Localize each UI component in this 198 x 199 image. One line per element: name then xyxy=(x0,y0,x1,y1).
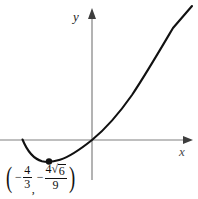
function-curve xyxy=(23,6,193,162)
y-fraction-denominator: 9 xyxy=(52,179,60,192)
open-paren: ( xyxy=(6,165,12,190)
x-axis-arrowhead xyxy=(183,136,193,144)
x-axis-label: x xyxy=(179,145,185,158)
radical-sign: √ xyxy=(52,163,59,175)
x-coordinate-sign: − xyxy=(14,171,23,183)
y-axis-arrowhead xyxy=(88,8,96,19)
graph-figure: y x ( − 4 3 , − 4√6 9 ) xyxy=(0,0,198,199)
x-fraction-denominator: 3 xyxy=(23,178,31,191)
y-coordinate-fraction: 4√6 9 xyxy=(45,163,67,192)
radicand: 6 xyxy=(58,164,66,178)
close-paren: ) xyxy=(69,165,75,190)
y-fraction-numerator: 4√6 xyxy=(45,163,67,177)
y-coordinate-sign: − xyxy=(36,171,45,183)
coordinate-comma: , xyxy=(32,183,36,195)
y-axis-label: y xyxy=(73,10,79,23)
minimum-point-annotation: ( − 4 3 , − 4√6 9 ) xyxy=(4,163,77,192)
x-coordinate-fraction: 4 3 xyxy=(23,164,32,191)
square-root-expression: √6 xyxy=(52,163,66,177)
x-fraction-numerator: 4 xyxy=(23,164,31,177)
